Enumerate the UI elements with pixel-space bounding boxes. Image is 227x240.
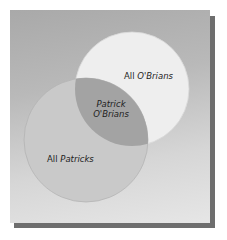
- venn-diagram-figure: All O'Brians Patrick O'Brians All Patric…: [0, 0, 227, 240]
- label-prefix: All: [47, 154, 60, 164]
- intersection-line-1: Patrick: [86, 99, 136, 109]
- label-prefix: All: [124, 71, 137, 81]
- intersection-line-2: O'Brians: [86, 109, 136, 119]
- label-emphasis: O'Brians: [137, 71, 173, 81]
- venn-diagram: [0, 0, 227, 240]
- label-all-obrians: All O'Brians: [124, 71, 173, 81]
- label-all-patricks: All Patricks: [47, 154, 94, 164]
- label-emphasis: Patricks: [60, 154, 94, 164]
- label-intersection: Patrick O'Brians: [86, 99, 136, 119]
